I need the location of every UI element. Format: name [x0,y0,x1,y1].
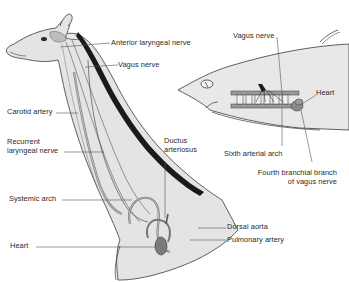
label-ductus-arteriosus-line2: arteriosus [164,146,197,155]
giraffe-eye [41,37,47,41]
label-fourth-branchial-branch-line2: of vagus nerve [288,178,337,187]
label-dorsal-aorta: Dorsal aorta [227,223,268,232]
shark-figure [178,30,349,130]
label-shark-vagus-nerve: Vagus nerve [233,32,275,41]
gill-arch-ventral-bar [231,104,299,108]
label-anterior-laryngeal-nerve: Anterior laryngeal nerve [111,39,191,48]
label-giraffe-heart: Heart [10,242,28,251]
label-giraffe-vagus-nerve: Vagus nerve [118,61,160,70]
giraffe-heart [155,237,167,255]
shark-heart-atrium [295,99,303,105]
label-sixth-arterial-arch: Sixth arterial arch [224,150,282,159]
label-shark-heart: Heart [316,89,334,98]
label-systemic-arch: Systemic arch [9,195,56,204]
diagram-canvas: Anterior laryngeal nerve Vagus nerve Car… [0,0,349,282]
label-recurrent-laryngeal-nerve-line2: laryngeal nerve [7,147,58,156]
shark-dorsal-fin [320,30,338,42]
label-pulmonary-artery: Pulmonary artery [227,236,284,245]
label-carotid-artery: Carotid artery [7,108,52,117]
giraffe-ossicone [60,14,72,26]
shark-eye [201,80,213,88]
gill-arch-dorsal-bar [231,91,299,95]
